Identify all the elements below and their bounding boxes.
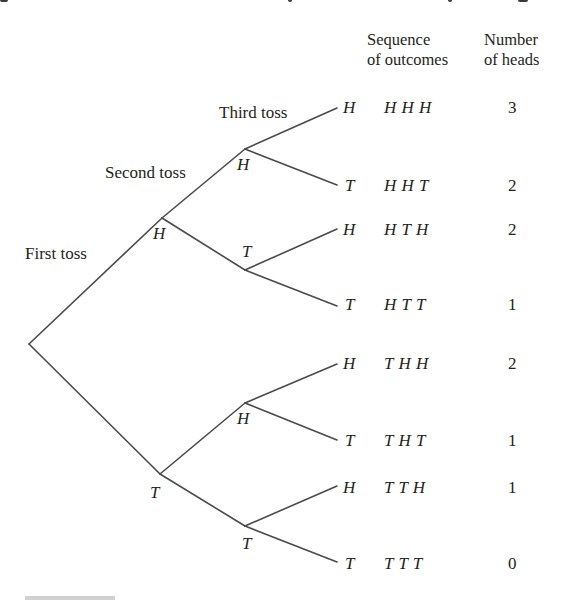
node-first-T: T	[150, 484, 159, 501]
first-toss-label: First toss	[25, 245, 87, 262]
heads-count: 3	[508, 99, 517, 116]
outcome-sequence: H T T	[384, 296, 425, 313]
second-toss-label: Second toss	[105, 164, 186, 181]
leaf-toss-label: H	[343, 221, 355, 238]
branch-HTH	[245, 229, 337, 270]
branch-HT	[162, 218, 245, 270]
node-second-TH: H	[237, 410, 249, 427]
sequence-header: Sequence of outcomes	[367, 30, 448, 70]
branch-TTH	[245, 486, 337, 526]
heads-count: 0	[508, 555, 517, 572]
outcome-sequence: T H H	[384, 355, 428, 372]
node-second-TT: T	[242, 535, 251, 552]
outcome-sequence: H H H	[384, 99, 431, 116]
outcome-sequence: H H T	[384, 177, 429, 194]
node-first-H: H	[153, 225, 165, 242]
branch-first-H	[29, 218, 162, 344]
leaf-toss-label: T	[345, 177, 354, 194]
leaf-toss-label: H	[343, 355, 355, 372]
coin-toss-tree-diagram: Sequence of outcomes Number of heads Fir…	[0, 0, 578, 600]
leaf-toss-label: H	[343, 99, 355, 116]
leaf-toss-label: H	[343, 479, 355, 496]
leaf-toss-label: T	[345, 555, 354, 572]
heads-header-line2: of heads	[484, 50, 539, 70]
heads-count: 2	[508, 355, 517, 372]
branch-HHT	[245, 149, 337, 185]
branch-HTT	[245, 270, 337, 306]
third-toss-label: Third toss	[219, 104, 287, 121]
outcome-sequence: T T T	[384, 555, 422, 572]
branch-TTT	[245, 526, 337, 562]
heads-count: 1	[508, 296, 517, 313]
branch-THH	[245, 364, 337, 403]
heads-header: Number of heads	[484, 30, 539, 70]
sequence-header-line2: of outcomes	[367, 50, 448, 70]
heads-count: 2	[508, 177, 517, 194]
heads-count: 1	[508, 432, 517, 449]
heads-count: 1	[508, 479, 517, 496]
heads-count: 2	[508, 221, 517, 238]
branch-THT	[245, 403, 337, 440]
outcome-sequence: T T H	[384, 479, 425, 496]
branch-TH	[160, 403, 245, 474]
leaf-toss-label: T	[345, 432, 354, 449]
tree-branches	[0, 0, 578, 600]
node-second-HH: H	[237, 156, 249, 173]
branch-TT	[160, 474, 245, 526]
leaf-toss-label: T	[345, 296, 354, 313]
branch-HH	[162, 149, 245, 218]
node-second-HT: T	[242, 243, 251, 260]
outcome-sequence: H T H	[384, 221, 428, 238]
heads-header-line1: Number	[484, 30, 539, 50]
outcome-sequence: T H T	[384, 432, 425, 449]
branch-first-T	[29, 344, 160, 474]
sequence-header-line1: Sequence	[367, 30, 448, 50]
